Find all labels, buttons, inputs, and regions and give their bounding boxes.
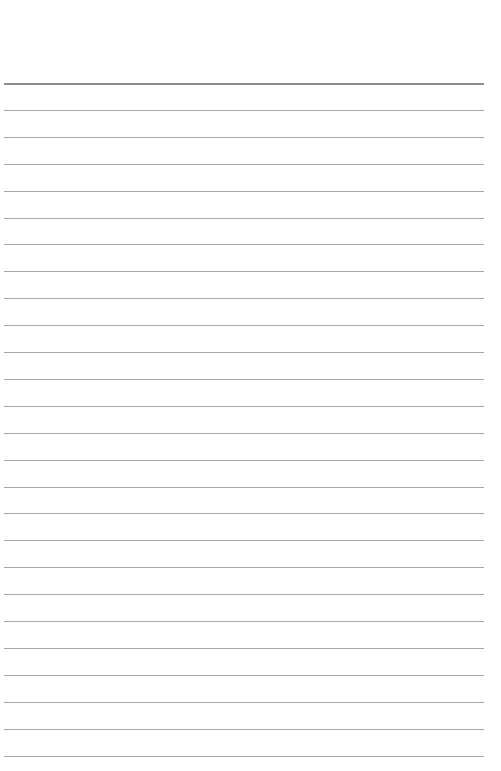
rule-line <box>4 191 484 192</box>
rule-line <box>4 594 484 595</box>
rule-line <box>4 325 484 326</box>
lined-paper-page <box>0 0 501 771</box>
rule-line <box>4 567 484 568</box>
rule-line <box>4 513 484 514</box>
rule-line <box>4 137 484 138</box>
rule-line <box>4 621 484 622</box>
rule-line <box>4 218 484 219</box>
rule-line <box>4 487 484 488</box>
rule-line <box>4 702 484 703</box>
rule-line <box>4 244 484 245</box>
rule-line <box>4 298 484 299</box>
rule-line <box>4 406 484 407</box>
rule-line <box>4 648 484 649</box>
rule-line <box>4 433 484 434</box>
rule-line <box>4 540 484 541</box>
rule-line <box>4 271 484 272</box>
top-rule-line <box>4 83 484 85</box>
rule-line <box>4 675 484 676</box>
rule-line <box>4 460 484 461</box>
rule-line <box>4 756 484 757</box>
rule-line <box>4 379 484 380</box>
rule-line <box>4 352 484 353</box>
rule-line <box>4 164 484 165</box>
rule-line <box>4 110 484 111</box>
rule-line <box>4 729 484 730</box>
